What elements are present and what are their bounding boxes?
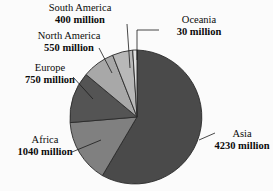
slice-label-oceania: Oceania 30 million (161, 14, 237, 37)
slice-label-europe-region: Europe (8, 62, 92, 74)
slice-label-north-america-value: 550 million (17, 42, 121, 54)
slice-label-asia: Asia 4230 million (213, 128, 271, 151)
slice-label-oceania-region: Oceania (161, 14, 237, 26)
slice-label-asia-region: Asia (213, 128, 271, 140)
slice-label-north-america: North America 550 million (17, 30, 121, 53)
slice-label-south-america-value: 400 million (28, 14, 132, 26)
slice-label-north-america-region: North America (17, 30, 121, 42)
slice-label-europe-value: 750 million (8, 74, 92, 86)
slice-label-asia-value: 4230 million (213, 140, 271, 152)
slice-label-africa-value: 1040 million (0, 146, 90, 158)
slice-label-europe: Europe 750 million (8, 62, 92, 85)
slice-label-africa-region: Africa (0, 134, 90, 146)
slice-label-south-america: South America 400 million (28, 2, 132, 25)
slice-label-south-america-region: South America (28, 2, 132, 14)
pie-chart-figure: South America 400 million North America … (0, 0, 273, 191)
slice-label-oceania-value: 30 million (161, 26, 237, 38)
slice-label-africa: Africa 1040 million (0, 134, 90, 157)
